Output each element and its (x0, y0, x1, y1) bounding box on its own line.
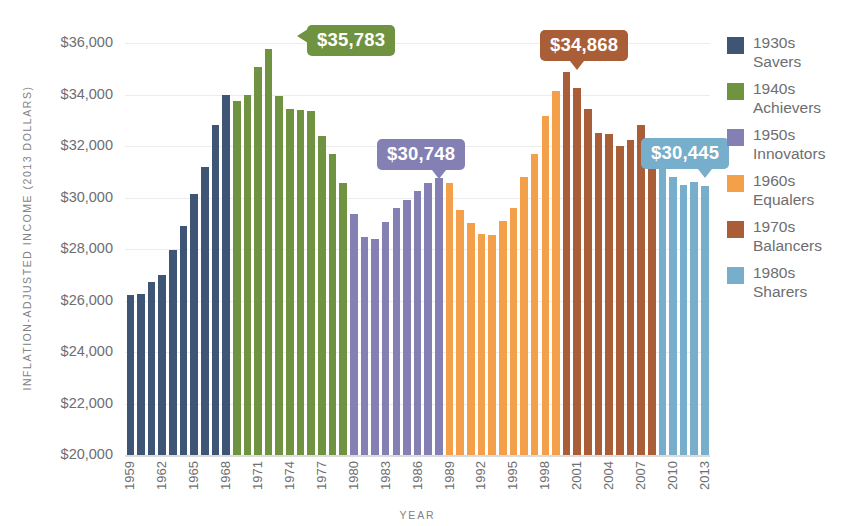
bar-cell (508, 43, 519, 455)
bar[interactable] (435, 178, 443, 455)
bar[interactable] (393, 208, 401, 455)
bar[interactable] (669, 177, 677, 455)
bar[interactable] (169, 250, 177, 455)
bar[interactable] (275, 96, 283, 455)
bar[interactable] (148, 282, 156, 455)
bar-cell (604, 43, 615, 455)
legend-item-innovators[interactable]: 1950sInnovators (727, 126, 852, 163)
bar-cell (210, 43, 221, 455)
bar[interactable] (701, 186, 709, 455)
x-tick-cell (263, 458, 274, 510)
bar[interactable] (265, 49, 273, 455)
bar[interactable] (659, 167, 667, 455)
bar[interactable] (329, 154, 337, 455)
bar[interactable] (584, 109, 592, 455)
bar[interactable] (424, 183, 432, 455)
bar[interactable] (627, 140, 635, 455)
bar[interactable] (158, 275, 166, 455)
bar-cell (242, 43, 253, 455)
bar[interactable] (222, 95, 230, 456)
legend-swatch (727, 267, 744, 284)
x-tick-cell: 1965 (189, 458, 200, 510)
x-tick-cell (231, 458, 242, 510)
bar-cell (668, 43, 679, 455)
bar[interactable] (233, 101, 241, 455)
bar[interactable] (180, 226, 188, 455)
legend-swatch (727, 83, 744, 100)
bar-cell (178, 43, 189, 455)
bar[interactable] (446, 183, 454, 455)
legend-item-sharers[interactable]: 1980sSharers (727, 264, 852, 301)
bar[interactable] (648, 154, 656, 455)
bar[interactable] (563, 72, 571, 455)
bar[interactable] (637, 125, 645, 455)
bar[interactable] (212, 125, 220, 455)
bar[interactable] (552, 91, 560, 455)
legend-item-balancers[interactable]: 1970sBalancers (727, 218, 852, 255)
x-tick-cell (423, 458, 434, 510)
legend-item-savers[interactable]: 1930sSavers (727, 34, 852, 71)
bar-cell (348, 43, 359, 455)
bar[interactable] (595, 133, 603, 455)
x-axis-title: YEAR (125, 509, 710, 521)
bar[interactable] (456, 210, 464, 455)
legend-item-achievers[interactable]: 1940sAchievers (727, 80, 852, 117)
bar[interactable] (531, 154, 539, 455)
x-tick-cell: 1977 (317, 458, 328, 510)
x-tick-cell (136, 458, 147, 510)
x-tick-cell: 1992 (476, 458, 487, 510)
legend-label-decade: 1960s (753, 172, 814, 191)
bar[interactable] (201, 167, 209, 455)
bar[interactable] (339, 183, 347, 455)
bar[interactable] (254, 67, 262, 455)
bar[interactable] (542, 116, 550, 455)
bar[interactable] (403, 200, 411, 455)
bar-cell (370, 43, 381, 455)
bar[interactable] (488, 235, 496, 455)
legend-label: 1980sSharers (753, 264, 807, 301)
bar[interactable] (690, 182, 698, 455)
bar[interactable] (244, 95, 252, 456)
bar-cell (253, 43, 264, 455)
bar[interactable] (467, 223, 475, 455)
bar[interactable] (573, 88, 581, 455)
bar[interactable] (286, 109, 294, 455)
x-tick-cell: 1986 (412, 458, 423, 510)
bar[interactable] (478, 234, 486, 455)
bar[interactable] (680, 185, 688, 455)
bar-series (125, 43, 710, 455)
x-tick-cell (487, 458, 498, 510)
bar[interactable] (127, 295, 135, 455)
bar-cell (199, 43, 210, 455)
x-tick-cell (295, 458, 306, 510)
bar-cell (168, 43, 179, 455)
bar[interactable] (297, 110, 305, 455)
legend-swatch (727, 37, 744, 54)
x-tick-cell (551, 458, 562, 510)
bar-cell (359, 43, 370, 455)
bar-cell (551, 43, 562, 455)
bar[interactable] (318, 136, 326, 455)
y-axis-tick-label: $24,000 (13, 343, 113, 359)
legend-swatch (727, 175, 744, 192)
bar[interactable] (307, 111, 315, 455)
bar[interactable] (414, 191, 422, 455)
bar[interactable] (371, 239, 379, 455)
bar[interactable] (382, 222, 390, 455)
bar-cell (189, 43, 200, 455)
legend-item-equalers[interactable]: 1960sEqualers (727, 172, 852, 209)
bar-cell (625, 43, 636, 455)
legend-label-name: Balancers (753, 237, 822, 256)
callout-tail (570, 61, 584, 70)
y-axis-tick-label: $34,000 (13, 86, 113, 102)
bar[interactable] (137, 294, 145, 455)
bar[interactable] (361, 237, 369, 455)
x-tick-cell (583, 458, 594, 510)
bar[interactable] (190, 194, 198, 455)
bar[interactable] (605, 134, 613, 455)
bar[interactable] (510, 208, 518, 455)
bar[interactable] (499, 221, 507, 455)
bar[interactable] (616, 146, 624, 455)
bar[interactable] (520, 177, 528, 455)
bar[interactable] (350, 214, 358, 455)
